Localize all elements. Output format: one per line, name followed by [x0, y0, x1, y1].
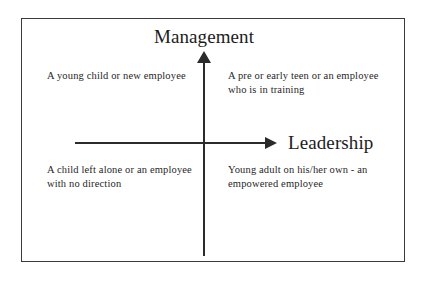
- vertical-axis-line: [203, 61, 205, 256]
- diagram-frame: Management Leadership A young child or n…: [21, 18, 405, 262]
- quadrant-top-right-text: A pre or early teen or an employee who i…: [228, 69, 388, 97]
- vertical-axis-label: Management: [22, 26, 386, 48]
- vertical-axis-arrow-icon: [197, 51, 211, 63]
- horizontal-axis-arrow-icon: [265, 137, 277, 149]
- quadrant-bottom-left-text: A child left alone or an employee with n…: [47, 163, 197, 191]
- quadrant-top-left-text: A young child or new employee: [47, 69, 197, 83]
- horizontal-axis-label: Leadership: [288, 132, 373, 154]
- quadrant-bottom-right-text: Young adult on his/her own - an empowere…: [228, 163, 388, 191]
- horizontal-axis-line: [75, 142, 267, 144]
